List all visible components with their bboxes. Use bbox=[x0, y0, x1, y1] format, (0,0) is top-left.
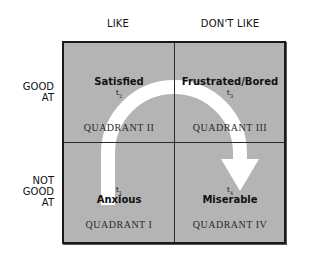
time-label: t3 bbox=[175, 88, 285, 99]
emotion-label: Satisfied bbox=[64, 76, 174, 87]
quadrant-i: t1 Anxious QUADRANT I bbox=[64, 143, 174, 242]
row-label-not-good-at: NOT GOOD AT bbox=[23, 175, 54, 208]
row-label-line: GOOD bbox=[23, 81, 54, 92]
emotion-label: Anxious bbox=[64, 194, 174, 205]
row-label-line: GOOD bbox=[23, 186, 54, 197]
column-header-like: LIKE bbox=[62, 18, 174, 29]
row-label-good-at: GOOD AT bbox=[23, 81, 54, 103]
quadrant-label: QUADRANT IV bbox=[175, 219, 285, 230]
row-label-line: NOT bbox=[23, 175, 54, 186]
quadrant-ii: Satisfied t2 QUADRANT II bbox=[64, 43, 174, 142]
column-header-dont-like: DON'T LIKE bbox=[174, 18, 286, 29]
emotion-label: Miserable bbox=[175, 194, 285, 205]
row-label-line: AT bbox=[23, 197, 54, 208]
quadrant-grid: Satisfied t2 QUADRANT II Frustrated/Bore… bbox=[62, 41, 286, 244]
emotion-label: Frustrated/Bored bbox=[175, 76, 285, 87]
row-label-line: AT bbox=[23, 92, 54, 103]
quadrant-label: QUADRANT II bbox=[64, 122, 174, 133]
quadrant-label: QUADRANT III bbox=[175, 122, 285, 133]
time-label: t2 bbox=[64, 88, 174, 99]
quadrant-iii: Frustrated/Bored t3 QUADRANT III bbox=[175, 43, 285, 142]
quadrant-iv: t4 Miserable QUADRANT IV bbox=[175, 143, 285, 242]
quadrant-label: QUADRANT I bbox=[64, 219, 174, 230]
